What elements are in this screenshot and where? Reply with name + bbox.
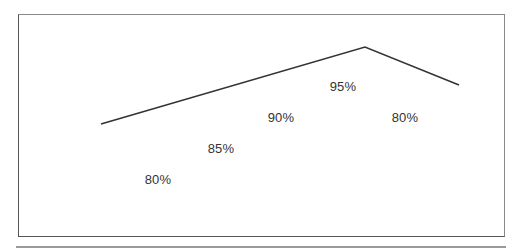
data-label: 80% — [145, 172, 172, 187]
data-label: 80% — [392, 110, 419, 125]
data-label: 85% — [208, 141, 235, 156]
bottom-rule — [16, 246, 506, 248]
data-label: 95% — [330, 79, 357, 94]
data-label: 90% — [268, 110, 295, 125]
line-plot — [0, 0, 529, 250]
